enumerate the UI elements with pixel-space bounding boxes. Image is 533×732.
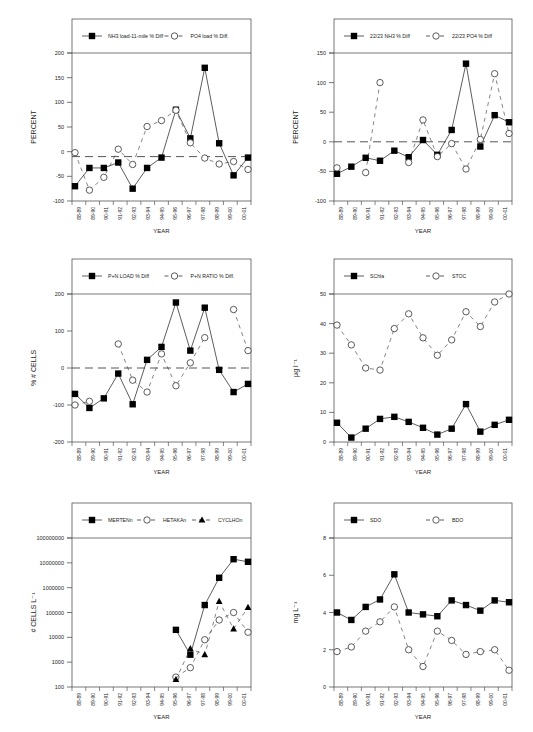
x-axis-label: YEAR [153,228,170,234]
filled-square-marker-icon [434,431,440,437]
filled-square-marker-icon [463,60,469,66]
legend: SChlaSTOC [344,273,467,279]
y-tick-label: 100 [55,684,64,690]
legend-label: SDO [370,517,381,523]
plot-frame [334,503,512,687]
y-tick-label: 6 [323,572,326,578]
open-circle-marker-icon [230,306,236,312]
open-circle-marker-icon [129,377,135,383]
x-tick-label: 89-90 [352,448,358,461]
x-tick-label: 95-96 [172,207,178,220]
filled-square-marker-icon [420,425,426,431]
open-circle-marker-icon [245,347,251,353]
filled-square-marker-icon [362,155,368,161]
chart-2223-nh3-po4: -100-5005010015088-8989-9090-9191-9292-9… [292,19,512,234]
filled-square-marker-icon [477,607,483,613]
filled-square-marker-icon [115,370,121,376]
filled-square-marker-icon [187,651,193,657]
filled-triangle-marker-icon [199,516,206,522]
x-tick-label: 91-92 [117,693,123,706]
x-tick-label: 92-93 [131,448,137,461]
filled-square-marker-icon [129,401,135,407]
filled-square-marker-icon [187,347,193,353]
filled-square-marker-icon [86,165,92,171]
x-tick-label: 88-89 [76,693,82,706]
y-tick-label: 20 [320,380,326,386]
x-tick-label: 92-93 [393,207,399,220]
open-circle-marker-icon [362,365,368,371]
filled-square-marker-icon [391,414,397,420]
filled-triangle-marker-icon [230,625,237,631]
chart-canvas: -100-5005010015020088-8989-9090-9191-929… [0,0,533,732]
open-circle-marker-icon [216,617,222,623]
x-tick-label: 92-93 [393,448,399,461]
filled-square-marker-icon [72,183,78,189]
filled-square-marker-icon [230,172,236,178]
x-tick-label: 89-90 [90,693,96,706]
series-mertenn [173,556,251,658]
filled-square-marker-icon [86,405,92,411]
x-tick-label: 97-98 [461,448,467,461]
x-tick-label: 94-95 [420,448,426,461]
open-circle-marker-icon [434,153,440,159]
filled-square-marker-icon [420,137,426,143]
x-tick-label: 89-90 [90,448,96,461]
y-tick-label: 0 [323,139,326,145]
y-tick-label: 0 [323,684,326,690]
legend-label: 22/23 NH3 % Diff [370,33,411,39]
open-circle-marker-icon [334,165,340,171]
x-tick-label: 99-00 [227,693,233,706]
filled-square-marker-icon [377,416,383,422]
legend-label: SChla [370,273,384,279]
open-circle-marker-icon [448,140,454,146]
filled-square-marker-icon [158,154,164,160]
x-tick-label: 94-95 [159,448,165,461]
x-tick-label: 00-01 [241,693,247,706]
filled-square-marker-icon [334,609,340,615]
open-circle-marker-icon [491,647,497,653]
filled-square-marker-icon [348,617,354,623]
filled-square-marker-icon [158,344,164,350]
filled-square-marker-icon [377,158,383,164]
x-tick-label: 90-91 [103,693,109,706]
filled-square-marker-icon [377,596,383,602]
filled-square-marker-icon [115,159,121,165]
filled-square-marker-icon [334,420,340,426]
series-po4-load-diff- [72,107,251,193]
legend-label: PO4 load % Diff. [191,33,229,39]
x-tick-label: 91-92 [379,207,385,220]
x-tick-label: 93-94 [145,448,151,461]
plot-frame [334,259,512,442]
x-tick-label: 95-96 [434,448,440,461]
open-circle-marker-icon [391,604,397,610]
chart-pn-load-ratio: -200-100010020088-8989-9090-9191-9292-93… [30,259,251,475]
open-circle-marker-icon [506,291,512,297]
x-tick-label: 96-97 [447,448,453,461]
x-tick-label: 00-01 [502,207,508,220]
open-circle-marker-icon [362,628,368,634]
filled-square-marker-icon [434,613,440,619]
y-tick-label: 50 [320,109,326,115]
legend: NH3 load-11-mile % DiffPO4 load % Diff. [82,33,229,39]
x-tick-label: 93-94 [406,448,412,461]
legend-label: MERTENn [108,517,133,523]
filled-square-marker-icon [144,357,150,363]
open-circle-marker-icon [433,273,439,279]
open-circle-marker-icon [86,398,92,404]
open-circle-marker-icon [477,648,483,654]
y-tick-label: 0 [61,365,64,371]
open-circle-marker-icon [348,644,354,650]
open-circle-marker-icon [506,130,512,136]
open-circle-marker-icon [173,107,179,113]
open-circle-marker-icon [245,629,251,635]
filled-triangle-marker-icon [216,598,223,604]
x-tick-label: 88-89 [76,207,82,220]
filled-square-marker-icon [362,425,368,431]
y-tick-label: 100000 [46,610,64,616]
x-tick-label: 89-90 [352,693,358,706]
legend-label: NH3 load-11-mile % Diff [108,33,164,39]
y-tick-label: 150 [55,75,64,81]
x-axis-label: YEAR [415,469,432,475]
x-tick-label: 98-99 [214,207,220,220]
x-tick-label: 00-01 [502,693,508,706]
